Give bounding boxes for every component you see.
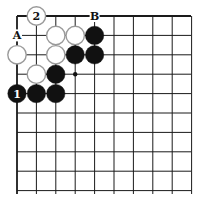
- white-stone: [8, 46, 26, 64]
- white-stone: [47, 26, 65, 44]
- black-stone: [85, 46, 103, 64]
- board-grid: [17, 16, 192, 194]
- go-board: AB 21: [0, 0, 199, 209]
- letter-mark-a: A: [12, 29, 22, 42]
- white-stone: [47, 46, 65, 64]
- white-stone: [66, 26, 84, 44]
- move-number-label: 2: [33, 10, 41, 23]
- black-stone: [85, 26, 103, 44]
- move-number-label: 1: [13, 88, 21, 101]
- letter-mark-b: B: [90, 10, 99, 23]
- star-points: [73, 72, 77, 76]
- black-stone: [66, 46, 84, 64]
- black-stone: [27, 84, 45, 102]
- white-stone: [27, 65, 45, 83]
- black-stone: [47, 65, 65, 83]
- star-point: [73, 72, 77, 76]
- black-stone: [47, 84, 65, 102]
